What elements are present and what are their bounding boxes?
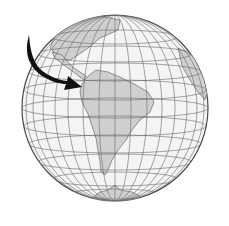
globe-illustration <box>0 0 229 226</box>
globe <box>22 15 208 210</box>
